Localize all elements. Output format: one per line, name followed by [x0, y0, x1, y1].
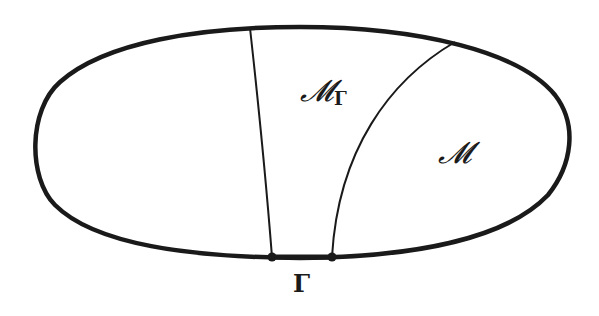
label-gamma: Γ [293, 272, 310, 296]
boundary-point-left [268, 253, 277, 262]
right-divider-arc [332, 42, 455, 257]
outer-boundary-curve [35, 27, 569, 258]
label-m-gamma-main: 𝓜 [300, 73, 333, 108]
label-m-gamma: 𝓜Γ [300, 76, 347, 106]
label-m: 𝓜 [438, 138, 471, 168]
left-divider-line [250, 28, 272, 257]
boundary-point-right [328, 253, 337, 262]
diagram-canvas: 𝓜Γ 𝓜 Γ [0, 0, 599, 316]
label-m-gamma-sub: Γ [334, 88, 347, 109]
